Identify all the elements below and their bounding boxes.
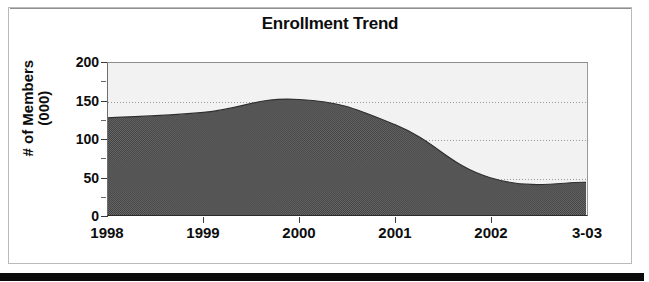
y-tick-minor-75: [101, 158, 106, 159]
plot-area: [107, 62, 588, 216]
y-tick-label-0: 0: [55, 208, 99, 224]
x-tick-label-2000: 2000: [260, 224, 338, 241]
y-tick-label-50: 50: [55, 170, 99, 186]
y-tick-minor-175: [101, 81, 106, 82]
x-tick-label-2001: 2001: [356, 224, 434, 241]
x-tick-mark-1999: [203, 217, 204, 223]
y-tick-mark-0: [101, 216, 108, 217]
y-axis-title: # of Members (000): [20, 18, 52, 198]
x-tick-label-1998: 1998: [68, 224, 146, 241]
scan-bottom-bar: [0, 273, 644, 281]
y-tick-label-200: 200: [55, 54, 99, 70]
y-tick-label-150: 150: [55, 93, 99, 109]
x-tick-label-2002: 2002: [452, 224, 530, 241]
y-tick-label-100: 100: [55, 131, 99, 147]
x-tick-mark-2002: [491, 217, 492, 223]
plot-inner: [108, 63, 587, 215]
area-series: [108, 63, 587, 215]
x-tick-label-3-03: 3-03: [548, 224, 626, 241]
x-tick-label-1999: 1999: [164, 224, 242, 241]
y-tick-minor-125: [101, 120, 106, 121]
enrollment-trend-chart: Enrollment Trend # of Members (000) 0501…: [0, 0, 649, 268]
chart-title: Enrollment Trend: [120, 14, 540, 34]
x-tick-mark-2000: [299, 217, 300, 223]
x-tick-mark-2001: [395, 217, 396, 223]
y-tick-minor-25: [101, 197, 106, 198]
